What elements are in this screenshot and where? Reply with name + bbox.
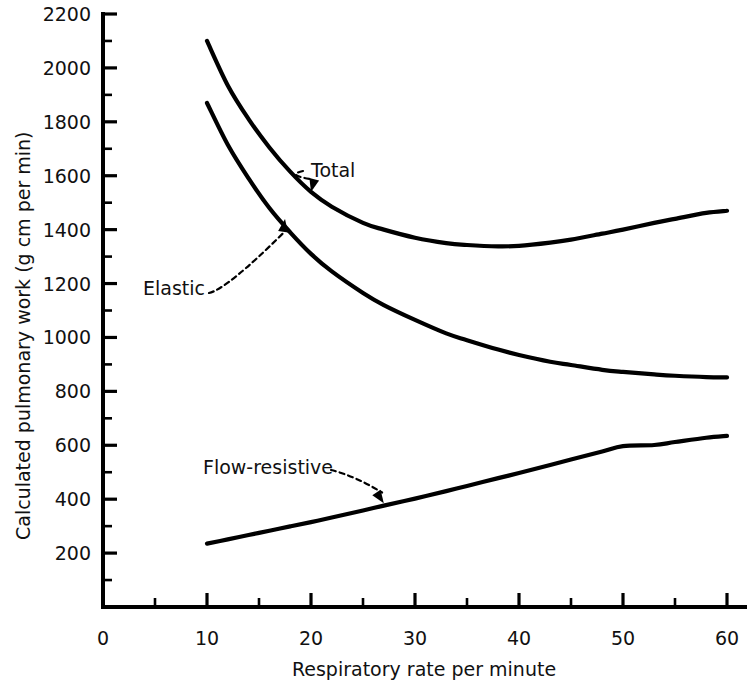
chart-figure: 2004006008001000120014001600180020002200… [0,0,747,692]
x-tick-label-0: 0 [97,627,109,649]
y-tick-label-800: 800 [55,380,91,402]
y-tick-label-1800: 1800 [43,111,91,133]
y-tick-label-1400: 1400 [43,219,91,241]
y-tick-label-200: 200 [55,542,91,564]
x-tick-label-20: 20 [299,627,323,649]
y-tick-label-600: 600 [55,434,91,456]
curve-total [207,41,727,246]
leader-line-elastic [209,232,285,293]
series-label-elastic: Elastic [143,277,205,299]
y-axis-title: Calculated pulmonary work (g cm per min) [12,132,34,541]
annotation-flow-resistive: Flow-resistive [203,456,384,503]
curve-flow-resistive [207,436,727,544]
leader-line-flow-resistive [331,470,382,493]
pulmonary-work-chart: 2004006008001000120014001600180020002200… [0,0,747,692]
curve-elastic [207,103,727,377]
x-axis-title: Respiratory rate per minute [292,658,556,680]
y-tick-label-1000: 1000 [43,326,91,348]
x-axis-tick-labels: 0102030405060 [97,627,739,649]
y-tick-label-1200: 1200 [43,273,91,295]
y-tick-label-2200: 2200 [43,3,91,25]
annotation-elastic: Elastic [143,219,288,299]
series-label-flow-resistive: Flow-resistive [203,456,333,478]
series-annotations: TotalElasticFlow-resistive [143,159,384,503]
y-tick-label-1600: 1600 [43,165,91,187]
x-tick-label-60: 60 [715,627,739,649]
x-tick-label-40: 40 [507,627,531,649]
arrowhead-total [309,178,319,192]
series-label-total: Total [310,159,355,181]
axes-group [103,14,745,607]
x-tick-label-10: 10 [195,627,219,649]
axis-lines [103,14,745,607]
y-tick-label-400: 400 [55,488,91,510]
y-tick-label-2000: 2000 [43,57,91,79]
x-tick-label-50: 50 [611,627,635,649]
y-axis-tick-labels: 2004006008001000120014001600180020002200 [43,3,91,564]
x-tick-label-30: 30 [403,627,427,649]
